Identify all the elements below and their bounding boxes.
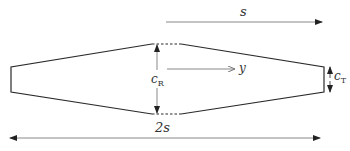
semi-span-label: s <box>240 4 247 19</box>
wing-planform-diagram: s cR y cT 2s <box>0 0 350 151</box>
full-span-label: 2s <box>154 120 170 135</box>
left-wing-outline <box>11 44 152 114</box>
tip-chord-label: cT <box>334 69 347 85</box>
wing-outline <box>11 44 324 114</box>
right-wing-outline <box>181 44 324 114</box>
spanwise-axis-label: y <box>238 61 246 75</box>
root-chord-label: cR <box>151 72 165 88</box>
